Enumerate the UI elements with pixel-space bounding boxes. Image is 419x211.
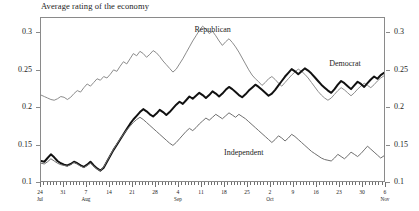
x-tick-major [339,182,340,187]
y-tick-label-right: 0.2 [394,102,419,111]
x-tick-major [201,182,202,187]
x-tick-minor [175,182,176,185]
x-tick-minor [303,182,304,185]
series-label-democrat: Democrat [329,59,361,68]
y-tick-label-left: 0.2 [2,102,32,111]
x-tick-minor [329,182,330,185]
x-tick-minor [296,182,297,185]
x-tick-minor [53,182,54,185]
x-tick-minor [250,182,251,185]
x-tick-label: 6Nov [370,189,400,202]
y-tick-mark-right [386,32,390,33]
x-tick-minor [185,182,186,185]
x-tick-minor [326,182,327,185]
x-tick-minor [83,182,84,185]
x-tick-major [86,182,87,187]
x-tick-minor [372,182,373,185]
x-tick-minor [152,182,153,185]
x-tick-minor [342,182,343,185]
x-tick-minor [273,182,274,185]
x-tick-minor [106,182,107,185]
x-tick-minor [277,182,278,185]
x-tick-minor [79,182,80,185]
y-tick-mark-right [386,70,390,71]
x-tick-minor [96,182,97,185]
x-tick-minor [306,182,307,185]
y-tick-label-left: 0.1 [2,177,32,186]
x-tick-minor [237,182,238,185]
x-tick-minor [227,182,228,185]
x-tick-minor [50,182,51,185]
x-tick-minor [336,182,337,185]
x-tick-minor [286,182,287,185]
x-tick-minor [214,182,215,185]
x-tick-minor [198,182,199,185]
x-tick-minor [171,182,172,185]
x-tick-month: Oct [255,196,285,203]
x-tick-minor [319,182,320,185]
y-tick-label-right: 0.25 [394,65,419,74]
x-tick-month: Nov [370,196,400,203]
x-tick-month: Jul [25,196,55,203]
x-tick-minor [204,182,205,185]
x-tick-major [178,182,179,187]
x-tick-major [316,182,317,187]
x-tick-minor [194,182,195,185]
x-tick-minor [234,182,235,185]
x-tick-major [109,182,110,187]
x-tick-major [293,182,294,187]
x-tick-minor [43,182,44,185]
y-tick-label-right: 0.3 [394,27,419,36]
x-tick-minor [267,182,268,185]
x-tick-minor [135,182,136,185]
x-tick-minor [240,182,241,185]
x-tick-minor [99,182,100,185]
x-tick-minor [211,182,212,185]
y-tick-label-left: 0.3 [2,27,32,36]
series-lines [41,18,384,181]
x-tick-minor [208,182,209,185]
series-line-independent [41,113,384,171]
x-tick-minor [375,182,376,185]
y-tick-mark-right [386,107,390,108]
x-tick-minor [191,182,192,185]
x-tick-minor [382,182,383,185]
x-tick-minor [349,182,350,185]
x-tick-minor [217,182,218,185]
x-tick-major [155,182,156,187]
x-tick-major [247,182,248,187]
x-tick-major [40,182,41,187]
x-tick-major [385,182,386,187]
x-tick-minor [346,182,347,185]
x-tick-major [224,182,225,187]
x-tick-minor [119,182,120,185]
y-tick-mark-right [386,182,390,183]
x-tick-minor [323,182,324,185]
x-tick-minor [365,182,366,185]
x-tick-minor [162,182,163,185]
x-tick-minor [244,182,245,185]
x-tick-minor [263,182,264,185]
x-tick-major [270,182,271,187]
y-tick-label-left: 0.15 [2,140,32,149]
x-tick-minor [116,182,117,185]
x-tick-minor [76,182,77,185]
x-tick-month: Aug [71,196,101,203]
x-tick-minor [290,182,291,185]
x-tick-minor [352,182,353,185]
x-tick-minor [122,182,123,185]
y-tick-mark-left [36,145,40,146]
chart-title: Average rating of the economy [41,1,149,11]
x-tick-minor [369,182,370,185]
x-tick-minor [283,182,284,185]
x-tick-minor [89,182,90,185]
economy-rating-chart: Average rating of the economy 0.10.150.2… [0,0,419,211]
x-tick-minor [60,182,61,185]
x-tick-major [132,182,133,187]
x-tick-minor [142,182,143,185]
x-tick-minor [129,182,130,185]
y-tick-label-right: 0.1 [394,177,419,186]
x-tick-minor [102,182,103,185]
x-tick-month: Sep [163,196,193,203]
x-tick-minor [125,182,126,185]
